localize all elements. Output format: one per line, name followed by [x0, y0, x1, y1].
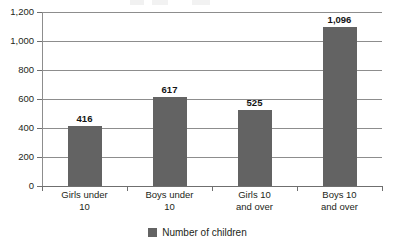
x-axis-label-line: Girls 10 — [212, 189, 297, 201]
bar-value-label-0: 416 — [50, 113, 120, 124]
chart-legend: Number of children — [0, 227, 395, 238]
x-axis-label-3: Boys 10and over — [297, 189, 382, 212]
x-axis-label-1: Boys under10 — [127, 189, 212, 212]
legend-label-number-of-children: Number of children — [162, 227, 246, 238]
y-tick-mark-1000 — [37, 41, 42, 42]
y-tick-mark-600 — [37, 99, 42, 100]
y-axis-label-400: 400 — [18, 123, 34, 133]
x-axis-label-line: 10 — [42, 201, 127, 213]
y-tick-mark-200 — [37, 157, 42, 158]
bar-value-label-2: 525 — [220, 97, 290, 108]
bar-2[interactable] — [238, 110, 272, 186]
x-axis-label-0: Girls under10 — [42, 189, 127, 212]
bar-0[interactable] — [68, 126, 102, 186]
x-axis-label-line: and over — [297, 201, 382, 213]
bar-chart: 02004006008001,0001,200 4166175251,096 G… — [0, 0, 395, 247]
plot-area: 4166175251,096 — [42, 12, 382, 186]
y-tick-mark-1200 — [37, 12, 42, 13]
x-axis-category-labels: Girls under10Boys under10Girls 10and ove… — [42, 189, 383, 223]
legend-color-swatch-number-of-children — [148, 228, 157, 237]
y-axis-label-200: 200 — [18, 152, 34, 162]
y-axis-label-800: 800 — [18, 65, 34, 75]
x-tick-mark-end-4 — [382, 186, 383, 191]
gridline-1200 — [42, 12, 382, 13]
x-axis-label-line: 10 — [127, 201, 212, 213]
x-axis-label-line: Girls under — [42, 189, 127, 201]
x-axis-label-line: Boys 10 — [297, 189, 382, 201]
x-tick-mark-3 — [297, 186, 298, 191]
x-axis-label-line: Boys under — [127, 189, 212, 201]
bar-3[interactable] — [323, 27, 357, 186]
y-axis-label-600: 600 — [18, 94, 34, 104]
y-axis-tick-labels: 02004006008001,0001,200 — [0, 0, 34, 200]
bar-1[interactable] — [153, 97, 187, 186]
x-tick-mark-1 — [127, 186, 128, 191]
y-tick-mark-800 — [37, 70, 42, 71]
y-tick-mark-400 — [37, 128, 42, 129]
x-tick-mark-2 — [212, 186, 213, 191]
x-axis-label-line: and over — [212, 201, 297, 213]
y-axis-label-1200: 1,200 — [10, 7, 34, 17]
y-axis-label-0: 0 — [29, 181, 34, 191]
x-axis-label-2: Girls 10and over — [212, 189, 297, 212]
x-tick-mark-end-0 — [42, 186, 43, 191]
y-axis-label-1000: 1,000 — [10, 36, 34, 46]
bar-value-label-1: 617 — [135, 84, 205, 95]
bar-value-label-3: 1,096 — [305, 14, 375, 25]
